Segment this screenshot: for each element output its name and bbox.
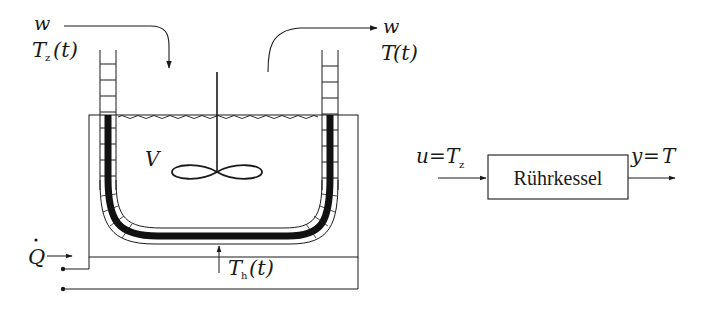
liquid-surface (118, 116, 318, 119)
inflow-temp-label: T z (t) (32, 38, 78, 63)
terminal-top (61, 267, 65, 271)
heater-temp-label: T h (t) (228, 256, 274, 281)
svg-text:=: = (429, 144, 446, 168)
svg-text:Q: Q (28, 245, 45, 269)
volume-label: V (145, 147, 162, 171)
process-block-label: Rührkessel (514, 167, 603, 189)
terminal-bottom (61, 287, 65, 291)
block-diagram: u = T z Rührkessel y = T (416, 144, 677, 199)
output-label: y = T (630, 144, 677, 168)
svg-text:z: z (45, 52, 50, 63)
vessel-inner-wall (116, 180, 322, 228)
svg-text:T: T (662, 144, 677, 168)
inflow-flow-label: w (34, 12, 50, 34)
svg-text:u: u (416, 144, 429, 168)
svg-text:z: z (459, 159, 464, 170)
svg-text:(t): (t) (393, 41, 418, 65)
svg-text:h: h (241, 270, 248, 281)
svg-text:y: y (630, 144, 643, 168)
heat-input-label: Q (28, 238, 45, 269)
svg-text:(t): (t) (53, 38, 78, 62)
heating-jacket (108, 115, 330, 236)
input-label: u = T z (416, 144, 464, 170)
outflow-flow-label: w (383, 15, 399, 37)
heat-input-circuit (63, 257, 358, 289)
svg-text:=: = (643, 144, 660, 168)
outflow-temp-label: T (t) (381, 41, 418, 65)
svg-text:(t): (t) (249, 256, 274, 280)
tank-schematic: w T z (t) w T (t) (28, 12, 418, 291)
stirred-tank-diagram: w T z (t) w T (t) (0, 0, 712, 310)
